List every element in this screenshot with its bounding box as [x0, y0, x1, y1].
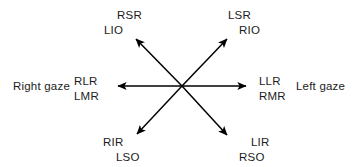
- label-lower-left-line2: LSO: [116, 150, 140, 165]
- label-left-middle-line2: LMR: [74, 89, 99, 104]
- label-right-middle-line1: LLR: [259, 74, 286, 89]
- gaze-label-left: Left gaze: [296, 80, 345, 92]
- label-upper-left-line1: RSR: [117, 8, 142, 23]
- arrow-lower-right: [182, 86, 227, 135]
- label-lower-left: RIR LSO: [103, 135, 140, 165]
- label-lower-right-line2: RSO: [239, 150, 270, 165]
- label-left-middle-line1: RLR: [74, 74, 99, 89]
- label-lower-left-line1: RIR: [103, 135, 140, 150]
- arrow-lower-left: [137, 86, 182, 134]
- arrow-upper-right: [182, 39, 227, 86]
- label-upper-right: LSR RIO: [228, 8, 260, 38]
- label-lower-right-line1: LIR: [251, 135, 270, 150]
- label-right-middle-line2: RMR: [259, 89, 286, 104]
- label-upper-right-line2: RIO: [239, 23, 260, 38]
- arrow-upper-left: [136, 39, 182, 86]
- label-right-middle: LLR RMR: [259, 74, 286, 104]
- label-left-middle: RLR LMR: [74, 74, 99, 104]
- label-upper-left: RSR LIO: [104, 8, 142, 38]
- gaze-label-right: Right gaze: [13, 80, 70, 92]
- label-upper-left-line2: LIO: [104, 23, 142, 38]
- label-upper-right-line1: LSR: [228, 8, 260, 23]
- gaze-muscle-diagram: RSR LIO LSR RIO RLR LMR LLR RMR RIR LSO …: [0, 0, 356, 167]
- label-lower-right: LIR RSO: [239, 135, 270, 165]
